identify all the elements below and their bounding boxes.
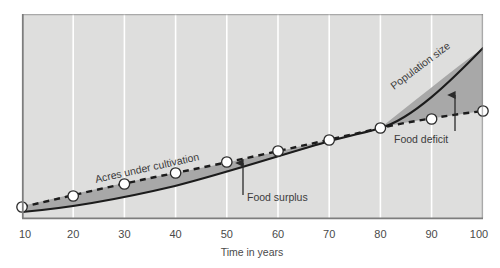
x-tick-label: 20	[67, 228, 79, 240]
data-point	[222, 157, 232, 167]
data-point	[273, 146, 283, 156]
data-point	[324, 135, 334, 145]
x-tick-label: 40	[169, 228, 181, 240]
data-point	[426, 114, 436, 124]
x-tick-label: 70	[323, 228, 335, 240]
x-tick-label: 10	[19, 228, 31, 240]
x-tick-label: 50	[221, 228, 233, 240]
data-point	[375, 123, 385, 133]
x-axis-title: Time in years	[221, 246, 284, 258]
data-point	[68, 191, 78, 201]
x-tick-label: 60	[272, 228, 284, 240]
population-food-chart: Acres under cultivation Population size …	[0, 0, 500, 268]
x-tick-label: 100	[470, 228, 488, 240]
data-point	[119, 179, 129, 189]
x-axis-tick-labels: 10 20 30 40 50 60 70 80 90 100	[19, 228, 488, 240]
x-tick-label: 90	[425, 228, 437, 240]
x-tick-label: 30	[118, 228, 130, 240]
food-surplus-label: Food surplus	[247, 191, 308, 203]
food-deficit-label: Food deficit	[394, 133, 448, 145]
chart-page: Acres under cultivation Population size …	[0, 0, 500, 268]
data-point	[170, 168, 180, 178]
x-tick-label: 80	[374, 228, 386, 240]
